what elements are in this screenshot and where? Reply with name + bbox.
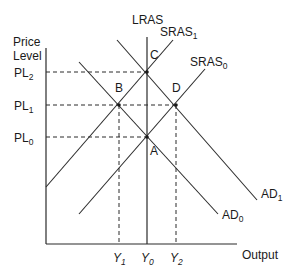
- ad0-curve: [79, 62, 218, 214]
- sras1-curve: [46, 40, 173, 187]
- sras1-label: SRAS1: [160, 25, 198, 41]
- y0-label: Y0: [141, 251, 154, 267]
- point-d-label: D: [172, 81, 181, 95]
- pl2-label: PL2: [14, 66, 34, 82]
- y-axis-label-line2: Level: [13, 49, 42, 63]
- ad-as-diagram: Price Level PL2 PL1 PL0 Y1 Y0 Y2 Output …: [0, 0, 297, 277]
- ad1-curve: [117, 40, 257, 200]
- point-c-dot: [145, 70, 149, 74]
- ad0-label: AD0: [222, 208, 244, 224]
- y1-label: Y1: [113, 251, 126, 267]
- y2-label: Y2: [170, 251, 183, 267]
- point-b-dot: [117, 103, 121, 107]
- ad1-label: AD1: [261, 187, 283, 203]
- lras-label: LRAS: [132, 13, 163, 27]
- x-axis-label: Output: [242, 248, 279, 262]
- point-a-dot: [145, 135, 149, 139]
- sras0-curve: [79, 69, 205, 214]
- pl0-label: PL0: [14, 131, 34, 147]
- point-b-label: B: [115, 81, 123, 95]
- pl1-label: PL1: [14, 99, 34, 115]
- point-a-label: A: [150, 144, 158, 158]
- point-c-label: C: [150, 48, 159, 62]
- point-d-dot: [174, 103, 178, 107]
- sras0-label: SRAS0: [190, 55, 228, 71]
- y-axis-label-line1: Price: [13, 35, 41, 49]
